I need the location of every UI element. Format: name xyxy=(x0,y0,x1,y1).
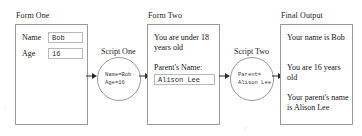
final-output-line-3: Your parent's name is Alison Lee xyxy=(287,93,350,113)
scan-artifact-bottom: / xyxy=(244,126,246,133)
script-two-title: Script Two xyxy=(234,47,269,56)
script-two-node: Parent= Alison Lee xyxy=(230,57,274,101)
age-input[interactable]: 16 xyxy=(48,48,83,59)
age-field-row: Age 16 xyxy=(22,48,83,59)
final-output-line-1: Your name is Bob xyxy=(287,33,350,43)
form-two-panel: You are under 18 years old Parent's Name… xyxy=(147,24,220,125)
name-field-label: Name xyxy=(22,33,43,42)
name-input[interactable]: Bob xyxy=(48,32,83,43)
script-one-title: Script One xyxy=(101,47,135,56)
scan-artifact-left: / xyxy=(4,105,6,112)
script-one-node: Name=Bob Age=16 xyxy=(97,57,141,101)
form-one-title: Form One xyxy=(16,11,49,20)
script-two-line-1: Parent= xyxy=(231,71,261,79)
script-one-line-1: Name=Bob xyxy=(98,71,131,79)
under-age-message: You are under 18 years old xyxy=(154,33,216,53)
final-output-title: Final Output xyxy=(281,11,323,20)
final-output-line-2: You are 16 years old xyxy=(287,63,350,83)
diagram-canvas: Form One Name Bob Age 16 Script One Name… xyxy=(0,0,362,136)
name-field-row: Name Bob xyxy=(22,32,83,43)
form-two-title: Form Two xyxy=(148,11,182,20)
age-field-label: Age xyxy=(22,49,43,58)
form-one-panel: Name Bob Age 16 xyxy=(15,24,88,125)
script-two-line-2: Alison Lee xyxy=(231,79,271,87)
parent-name-label: Parent's Name: xyxy=(154,63,216,73)
final-output-panel: Your name is Bob You are 16 years old Yo… xyxy=(280,24,353,125)
script-one-line-2: Age=16 xyxy=(98,79,125,87)
parent-name-input[interactable]: Alison Lee xyxy=(154,74,215,85)
